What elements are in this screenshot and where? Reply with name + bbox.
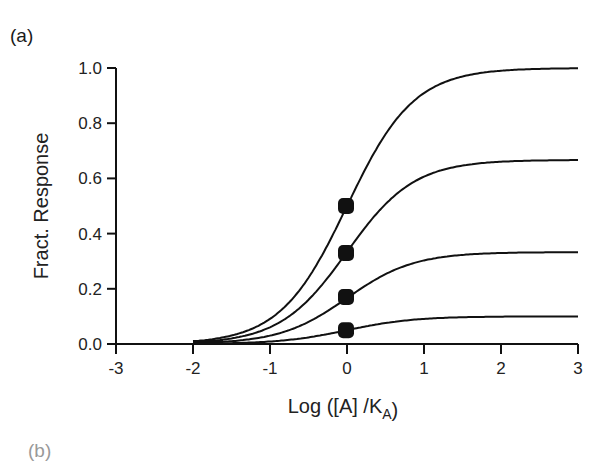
y-tick-label: 0.8 [78,114,102,133]
x-tick-label: 3 [573,359,582,378]
y-tick-label: 0.0 [78,335,102,354]
axes: 0.00.20.40.60.81.0-3-2-10123 [78,59,582,378]
curves [193,68,578,344]
x-tick-label: 0 [342,359,351,378]
curve-origin-overlap [193,340,223,344]
x-tick-label: -2 [185,359,200,378]
x-tick-label: -3 [108,359,123,378]
data-point-marker [338,198,354,214]
x-tick-label: 2 [496,359,505,378]
x-axis-title: Log ([A] /KA) [288,395,399,422]
data-point-marker [338,322,354,338]
x-tick-label: -1 [262,359,277,378]
y-axis-title: Fract. Response [30,133,52,280]
y-tick-label: 0.4 [78,225,102,244]
x-tick-label: 1 [419,359,428,378]
data-point-marker [338,289,354,305]
data-point-marker [338,245,354,261]
y-tick-label: 0.6 [78,169,102,188]
response-curve-curve-2 [193,160,578,342]
y-tick-label: 0.2 [78,280,102,299]
y-tick-label: 1.0 [78,59,102,78]
